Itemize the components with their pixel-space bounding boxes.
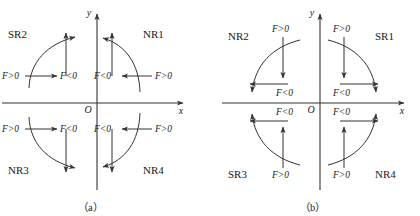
quadrant-a-upper-right: F<0 F>0 NR1 bbox=[93, 28, 172, 92]
force-label-a-q3-outer: F>0 bbox=[1, 124, 19, 134]
force-label-a-q1-inner: F<0 bbox=[93, 71, 111, 81]
arc-a-q1 bbox=[103, 38, 140, 92]
quadrant-a-upper-left: F>0 F<0 SR2 bbox=[1, 28, 77, 88]
arc-b-q3 bbox=[252, 114, 300, 165]
figure-root: x y O F>0 F<0 SR2 F<0 F>0 NR1 bbox=[0, 0, 420, 216]
force-label-b-q3-horizontal: F<0 bbox=[275, 107, 293, 117]
caption-b: （b） bbox=[300, 199, 325, 214]
quadrant-b-upper-left: F>0 F<0 NR2 bbox=[228, 24, 300, 98]
y-axis-label: y bbox=[309, 7, 315, 18]
caption-a: （a） bbox=[78, 199, 103, 214]
quadrant-label-b-q3: SR3 bbox=[228, 168, 247, 180]
quadrant-label-a-q4: NR4 bbox=[143, 164, 164, 176]
quadrant-label-b-q4: NR4 bbox=[375, 168, 396, 180]
force-label-b-q4-horizontal: F<0 bbox=[332, 107, 350, 117]
x-axis-label: x bbox=[178, 105, 184, 116]
force-label-b-q1-horizontal: F<0 bbox=[332, 88, 350, 98]
quadrant-a-lower-left: F>0 F<0 NR3 bbox=[1, 117, 77, 176]
quadrant-a-lower-right: F<0 F>0 NR4 bbox=[93, 113, 172, 176]
force-label-b-q2-vertical: F>0 bbox=[271, 24, 289, 34]
force-label-a-q4-inner: F<0 bbox=[93, 124, 111, 134]
arc-b-q4 bbox=[328, 114, 376, 165]
quadrant-label-b-q1: SR1 bbox=[375, 30, 394, 42]
force-label-a-q4-outer: F>0 bbox=[154, 124, 172, 134]
force-label-a-q3-inner: F<0 bbox=[59, 124, 77, 134]
force-label-b-q1-vertical: F>0 bbox=[332, 24, 350, 34]
force-label-a-q2-inner: F<0 bbox=[59, 71, 77, 81]
diagram-a: x y O F>0 F<0 SR2 F<0 F>0 NR1 bbox=[0, 0, 200, 200]
quadrant-label-b-q2: NR2 bbox=[228, 30, 249, 42]
quadrant-b-lower-left: F<0 F>0 SR3 bbox=[228, 107, 300, 180]
x-axis-label: x bbox=[399, 105, 405, 116]
quadrant-b-lower-right: F<0 F>0 NR4 bbox=[328, 107, 396, 180]
force-label-a-q1-outer: F>0 bbox=[154, 71, 172, 81]
quadrant-label-a-q3: NR3 bbox=[8, 164, 29, 176]
quadrant-label-a-q1: NR1 bbox=[143, 28, 164, 40]
force-label-b-q2-horizontal: F<0 bbox=[275, 88, 293, 98]
force-label-b-q3-vertical: F>0 bbox=[271, 170, 289, 180]
diagram-b: x y O F>0 F<0 NR2 F>0 F<0 SR1 F<0 bbox=[210, 0, 420, 200]
force-label-a-q2-outer: F>0 bbox=[1, 71, 19, 81]
force-label-b-q4-vertical: F>0 bbox=[332, 170, 350, 180]
arc-a-q4 bbox=[103, 113, 140, 167]
origin-label: O bbox=[307, 104, 314, 115]
y-axis-label: y bbox=[86, 7, 92, 18]
quadrant-label-a-q2: SR2 bbox=[8, 28, 27, 40]
quadrant-b-upper-right: F>0 F<0 SR1 bbox=[328, 24, 394, 98]
origin-label: O bbox=[84, 104, 91, 115]
